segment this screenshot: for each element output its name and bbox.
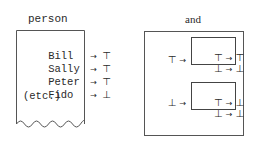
bottom-symbol: ⊥	[102, 89, 111, 101]
and-function-box: ⊤→ ⊤→⊤ ⊥→⊥ ⊥→ ⊤→⊥ ⊥→⊥	[144, 31, 244, 136]
and-title: and	[185, 13, 201, 25]
and-case-input: ⊤→	[155, 42, 189, 79]
bottom-symbol: ⊥	[236, 108, 245, 119]
and-case-input: ⊥→	[155, 85, 189, 122]
arrow-icon: →	[223, 110, 236, 119]
subtable-row: ⊥→⊥	[195, 96, 244, 133]
and-subtable: ⊤→⊥ ⊥→⊥	[191, 82, 236, 110]
arrow-icon: →	[223, 65, 236, 74]
etc-label: (etc.)	[23, 90, 61, 102]
arrow-icon: →	[176, 56, 189, 65]
person-function-box: Bill→⊤ Sally→⊤ Peter→⊤ Fido→⊥ (etc.)	[16, 30, 84, 132]
and-subtable: ⊤→⊤ ⊥→⊥	[191, 37, 236, 65]
bottom-symbol: ⊥	[236, 63, 245, 74]
bottom-symbol: ⊥	[214, 108, 223, 119]
bottom-symbol: ⊥	[214, 63, 223, 74]
arrow-icon: →	[176, 99, 189, 108]
person-title: person	[28, 13, 68, 25]
arrow-icon: →	[90, 90, 102, 102]
